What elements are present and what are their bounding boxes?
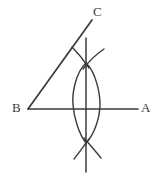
point-label-c: C: [93, 5, 102, 18]
geometry-diagram: A B C: [0, 0, 162, 179]
geometry-canvas: [0, 0, 162, 179]
construction-arc-right: [86, 63, 100, 143]
construction-arc-left: [73, 63, 86, 143]
ray-bc: [28, 20, 92, 109]
point-label-b: B: [12, 101, 21, 114]
point-label-a: A: [141, 101, 150, 114]
